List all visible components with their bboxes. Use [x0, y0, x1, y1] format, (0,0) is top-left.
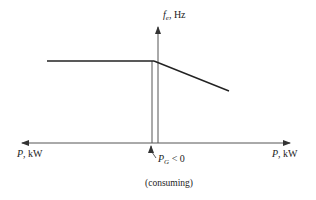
frequency-power-diagram: [0, 0, 316, 200]
pointer-arrow: [151, 146, 156, 158]
operating-point-label: PG < 0: [158, 153, 185, 166]
x-axis-right-label: P, kW: [272, 148, 298, 159]
droop-curve: [154, 61, 229, 91]
y-axis-label: fe, Hz: [163, 9, 186, 22]
operating-point-note: (consuming): [145, 178, 193, 188]
x-axis-left-label: P, kW: [17, 148, 43, 159]
